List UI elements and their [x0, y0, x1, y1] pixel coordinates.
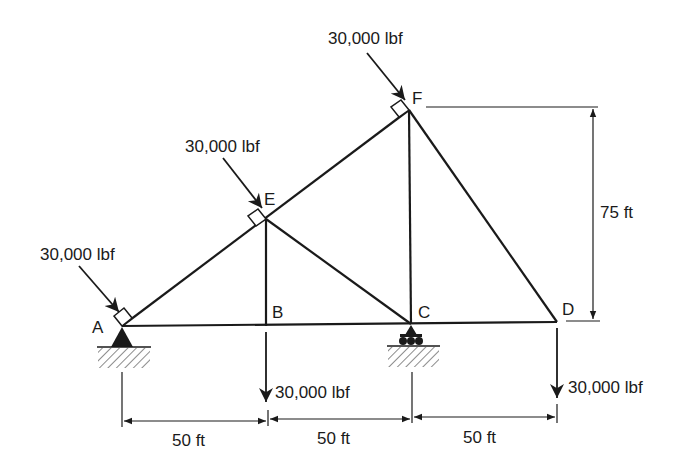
dim-label-height: 75 ft	[600, 203, 633, 222]
truss-diagram: 30,000 lbf 30,000 lbf 30,000 lbf 30,000 …	[0, 0, 699, 476]
member-EC	[266, 219, 411, 324]
node-label-E: E	[264, 190, 275, 209]
right-angle-markers	[114, 100, 409, 326]
load-label-D: 30,000 lbf	[568, 378, 643, 397]
roller-support	[387, 325, 440, 367]
load-arrow-A	[79, 266, 119, 312]
load-arrow-F	[367, 53, 405, 100]
member-FD	[409, 110, 557, 322]
load-label-B: 30,000 lbf	[275, 383, 350, 402]
member-AD	[122, 322, 557, 326]
ground-hatch-C	[388, 347, 439, 367]
roller-support-icon	[405, 325, 417, 335]
load-arrow-E	[223, 158, 262, 208]
dim-label-BC: 50 ft	[317, 429, 350, 448]
node-label-B: B	[272, 303, 283, 322]
ground-hatch-A	[98, 348, 150, 368]
node-label-A: A	[92, 318, 104, 337]
load-label-A: 30,000 lbf	[40, 245, 115, 264]
vertical-dimension	[426, 107, 600, 321]
node-label-C: C	[418, 303, 430, 322]
node-label-D: D	[562, 300, 574, 319]
dim-label-CD: 50 ft	[463, 428, 496, 447]
load-label-F: 30,000 lbf	[328, 29, 403, 48]
node-label-F: F	[412, 89, 422, 108]
pin-support-icon	[111, 327, 133, 347]
right-angle-E	[248, 209, 266, 226]
dim-label-AB: 50 ft	[172, 431, 205, 450]
pin-support	[97, 327, 151, 368]
loads	[79, 53, 557, 402]
member-FC	[409, 110, 411, 324]
right-angle-F	[391, 100, 409, 117]
load-label-E: 30,000 lbf	[185, 137, 260, 156]
